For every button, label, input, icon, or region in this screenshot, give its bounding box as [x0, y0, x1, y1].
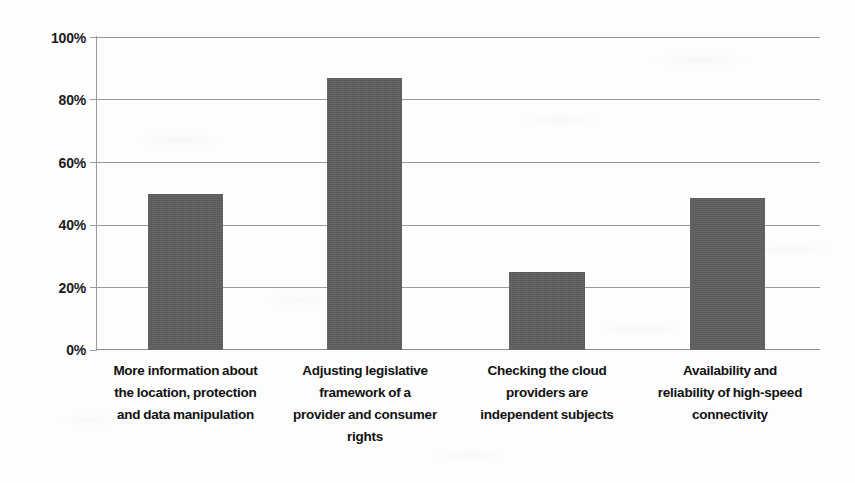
bar-availability-reliability[interactable] — [690, 198, 765, 350]
bar-checking-cloud-providers[interactable] — [509, 272, 585, 350]
y-tick-label-40: 40% — [24, 217, 86, 233]
y-tick-mark-100 — [90, 37, 97, 38]
x-axis-label-line: and data manipulation — [84, 404, 287, 426]
y-tick-label-100: 100% — [24, 30, 86, 46]
gridline-80 — [97, 99, 820, 100]
x-axis-label-adjusting-legislative: Adjusting legislative framework of a pro… — [267, 360, 463, 448]
y-tick-mark-20 — [90, 287, 97, 288]
bar-chart: 100% 80% 60% 40% 20% 0% More information… — [0, 0, 855, 483]
x-axis-label-line: connectivity — [631, 404, 829, 426]
y-tick-mark-0 — [90, 350, 97, 351]
x-axis-label-availability-reliability: Availability and reliability of high-spe… — [631, 360, 829, 426]
y-tick-label-60: 60% — [24, 155, 86, 171]
x-axis-label-line: providers are — [458, 382, 636, 404]
x-axis-label-line: Adjusting legislative — [267, 360, 463, 382]
x-axis-label-line: rights — [267, 426, 463, 448]
y-axis-label-group: 100% 80% 60% 40% 20% 0% — [20, 0, 86, 483]
x-axis-label-line: framework of a — [267, 382, 463, 404]
x-axis-label-line: Availability and — [631, 360, 829, 382]
x-axis-label-line: reliability of high-speed — [631, 382, 829, 404]
y-tick-mark-80 — [90, 99, 97, 100]
y-tick-label-0: 0% — [24, 342, 86, 358]
x-axis-label-line: the location, protection — [84, 382, 287, 404]
x-axis-label-group: More information about the location, pro… — [97, 360, 820, 470]
y-tick-mark-60 — [90, 162, 97, 163]
gridline-60 — [97, 162, 820, 163]
x-axis-label-line: independent subjects — [458, 404, 636, 426]
x-axis-label-more-information: More information about the location, pro… — [84, 360, 287, 426]
y-tick-label-80: 80% — [24, 92, 86, 108]
x-axis-label-line: provider and consumer — [267, 404, 463, 426]
bar-more-information[interactable] — [148, 194, 223, 351]
y-tick-label-20: 20% — [24, 280, 86, 296]
plot-area — [97, 37, 820, 350]
x-axis-label-line: More information about — [84, 360, 287, 382]
x-axis-label-checking-cloud-providers: Checking the cloud providers are indepen… — [458, 360, 636, 426]
gridline-100 — [97, 37, 820, 38]
x-axis-label-line: Checking the cloud — [458, 360, 636, 382]
y-tick-mark-40 — [90, 225, 97, 226]
bar-adjusting-legislative[interactable] — [327, 78, 402, 350]
